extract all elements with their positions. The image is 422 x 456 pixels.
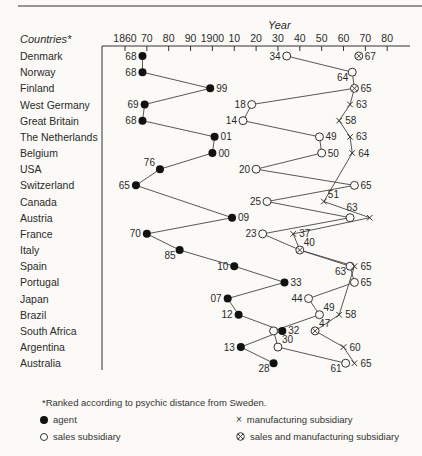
x-tick-label: 20 (250, 32, 262, 44)
open-circle-marker: 18 (235, 99, 256, 110)
point-label: 51 (328, 189, 340, 200)
point-label: 61 (331, 363, 343, 374)
country-label: Denmark (20, 50, 63, 62)
filled-circle-marker: 09 (228, 212, 250, 223)
point-label: 68 (125, 67, 137, 78)
point-label: 65 (360, 180, 372, 191)
year-axis-title: Year (268, 19, 292, 31)
country-label: Great Britain (20, 115, 79, 127)
point-label: 65 (360, 358, 372, 369)
point-label: 68 (125, 115, 137, 126)
point-label: 64 (358, 148, 370, 159)
country-label: France (20, 228, 53, 240)
open-circle-marker: 49 (315, 302, 335, 319)
open-circle-marker (270, 327, 278, 335)
cross-marker: 58 (336, 115, 356, 126)
open-circle-marker: 34 (270, 51, 291, 62)
country-label: Brazil (20, 309, 46, 321)
country-label: Norway (20, 66, 56, 78)
point-label: 18 (235, 99, 247, 110)
point-label: 49 (325, 131, 337, 142)
country-label: West Germany (20, 99, 91, 111)
filled-circle-marker: 00 (208, 148, 230, 159)
open-circle-marker: 65 (350, 180, 372, 191)
x-tick-label: 50 (316, 32, 328, 44)
x-tick-label: 90 (185, 32, 197, 44)
point-label: 85 (165, 250, 177, 261)
filled-circle-marker: 76 (144, 157, 164, 173)
country-label: Belgium (20, 147, 58, 159)
open-circle-marker: 25 (250, 196, 271, 207)
point-label: 13 (224, 342, 236, 353)
filled-circle-marker: 68 (125, 67, 146, 78)
filled-circle-marker: 10 (217, 261, 238, 272)
point-label: 20 (239, 164, 251, 175)
x-tick-label: 40 (294, 32, 306, 44)
open-circle-marker: 63 (346, 202, 358, 222)
point-label: 63 (335, 266, 347, 277)
open-circle-marker: 49 (315, 131, 337, 142)
filled-circle-marker: 33 (281, 277, 303, 288)
open-circle-marker: 65 (350, 277, 372, 288)
point-label: 30 (282, 334, 294, 345)
point-label: 44 (291, 293, 303, 304)
open-circle-marker: 23 (246, 228, 267, 239)
data-points: 6868996968010076650970851033071232132834… (119, 51, 377, 375)
filled-circle-marker: 99 (206, 83, 228, 94)
open-circle-marker: 50 (318, 148, 340, 159)
country-label: Japan (20, 293, 49, 305)
filled-circle-icon (40, 416, 48, 424)
point-label: 23 (246, 228, 258, 239)
point-label: 58 (345, 309, 357, 320)
filled-circle-marker: 85 (165, 246, 184, 261)
open-circle-marker: 20 (239, 164, 260, 175)
point-label: 34 (270, 51, 282, 62)
x-tick-label: 1860 (113, 32, 137, 44)
x-tick-label: 70 (141, 32, 153, 44)
point-label: 40 (304, 237, 316, 248)
point-label: 58 (345, 115, 357, 126)
country-label: Italy (20, 244, 40, 256)
point-label: 28 (258, 363, 270, 374)
cross-icon: × (236, 416, 242, 424)
x-tick-label: 10 (228, 32, 240, 44)
filled-circle-marker: 69 (128, 99, 149, 110)
point-label: 33 (291, 277, 303, 288)
x-tick-label: 80 (381, 32, 393, 44)
circle-cross-marker: 65 (350, 83, 372, 94)
filled-circle-marker: 28 (258, 359, 277, 374)
filled-circle-marker: 68 (125, 115, 146, 126)
country-label: Finland (20, 82, 55, 94)
open-circle-icon (40, 433, 48, 441)
countries-header: Countries* (20, 33, 72, 45)
filled-circle-marker: 70 (130, 228, 151, 239)
point-label: 63 (346, 202, 358, 213)
filled-circle-marker: 65 (119, 180, 140, 191)
point-label: 69 (128, 99, 140, 110)
country-label: Argentina (20, 341, 65, 353)
cross-marker: 58 (336, 309, 356, 320)
country-label: The Netherlands (20, 131, 98, 143)
country-label: Switzerland (20, 179, 74, 191)
legend-mfg-label: manufacturing subsidiary (247, 414, 353, 425)
legend-agent: agent (40, 414, 77, 425)
point-label: 10 (217, 261, 229, 272)
point-label: 65 (360, 83, 372, 94)
point-label: 65 (360, 261, 372, 272)
filled-circle-marker: 07 (211, 293, 232, 304)
point-label: 47 (319, 318, 331, 329)
cross-marker: 64 (349, 148, 369, 159)
point-label: 14 (226, 115, 238, 126)
point-label: 63 (356, 131, 368, 142)
point-label: 99 (216, 83, 228, 94)
circle-cross-marker: 67 (355, 51, 377, 62)
point-label: 60 (350, 342, 362, 353)
footnote: *Ranked according to psychic distance fr… (42, 397, 266, 408)
open-circle-marker: 44 (291, 293, 312, 304)
circle-cross-marker: 47 (311, 318, 331, 335)
country-label: Australia (20, 357, 61, 369)
country-labels: DenmarkNorwayFinlandWest GermanyGreat Br… (20, 50, 98, 369)
point-label: 67 (365, 51, 377, 62)
point-label: 50 (328, 148, 340, 159)
cross-marker: 65 (352, 261, 372, 272)
